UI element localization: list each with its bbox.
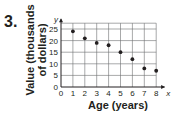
x-axis-arrow-icon	[161, 85, 165, 89]
y-tick-label: 20	[49, 37, 58, 46]
x-tick-label: 5	[118, 89, 123, 98]
x-tick-label: 2	[83, 89, 88, 98]
y-tick-label: 5	[54, 71, 59, 80]
x-tick-label: 4	[106, 89, 111, 98]
data-point	[142, 67, 146, 71]
data-point	[83, 36, 87, 40]
scatter-plot: 0123456780510152025xy	[0, 0, 173, 117]
x-tick-label: 0	[59, 89, 64, 98]
data-point	[71, 29, 75, 33]
y-axis-arrow-icon	[59, 18, 63, 22]
x-tick-label: 6	[130, 89, 135, 98]
y-tick-label: 15	[49, 48, 58, 57]
y-tick-label: 10	[49, 60, 58, 69]
y-tick-label: 25	[49, 25, 58, 34]
data-point	[107, 43, 111, 47]
x-tick-label: 7	[142, 89, 147, 98]
x-tick-label: 8	[154, 89, 159, 98]
x-tick-label: 1	[71, 89, 76, 98]
data-point	[119, 50, 123, 54]
data-point	[154, 69, 158, 73]
x-tick-label: 3	[94, 89, 99, 98]
x-axis-letter: x	[165, 89, 171, 98]
data-point	[131, 57, 135, 61]
y-axis-letter: y	[53, 15, 59, 24]
data-point	[95, 41, 99, 45]
y-tick-label: 0	[54, 83, 59, 92]
